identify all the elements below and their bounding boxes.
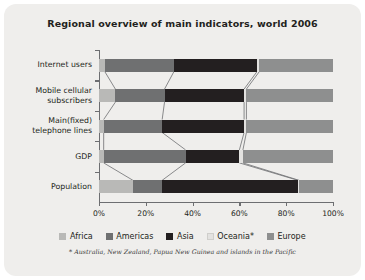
x-axis-tick xyxy=(333,202,334,206)
bar-row xyxy=(99,150,333,163)
y-axis-category-label: Mobile cellularsubscribers xyxy=(4,86,92,105)
y-axis-tick xyxy=(95,141,99,142)
segment-connector-line xyxy=(246,72,259,89)
chart-legend: AfricaAmericasAsiaOceania*Europe xyxy=(4,232,361,241)
legend-item-oceania[interactable]: Oceania* xyxy=(207,232,254,241)
legend-swatch-icon xyxy=(59,233,66,240)
segment-connector-line xyxy=(162,163,185,180)
legend-swatch-icon xyxy=(166,233,173,240)
segment-connector-line xyxy=(239,163,298,180)
y-axis-category-label: Main(fixed)telephone lines xyxy=(4,116,92,135)
bar-segment-europe xyxy=(246,120,333,133)
y-axis-category-label: Internet users xyxy=(4,60,92,70)
segment-connector-line xyxy=(104,163,133,180)
segment-connector-line xyxy=(104,102,116,119)
bar-segment-asia xyxy=(186,150,240,163)
x-axis-tick-label: 100% xyxy=(316,209,350,218)
chart-footnote: * Australia, New Zealand, Papua New Guin… xyxy=(4,248,361,255)
legend-label: Americas xyxy=(116,232,153,241)
legend-swatch-icon xyxy=(267,233,274,240)
bar-segment-africa xyxy=(99,89,115,102)
bar-segment-americas xyxy=(105,59,174,72)
segment-connector-line xyxy=(243,163,299,180)
bar-segment-europe xyxy=(299,180,333,193)
x-axis-tick-label: 40% xyxy=(176,209,210,218)
bar-segment-europe xyxy=(243,150,333,163)
y-axis-category-label: Population xyxy=(4,182,92,192)
chart-card: Regional overview of main indicators, wo… xyxy=(4,4,361,276)
legend-item-africa[interactable]: Africa xyxy=(59,232,92,241)
segment-connector-line xyxy=(162,133,185,150)
segment-connector-line xyxy=(243,133,247,150)
y-axis-category-label: GDP xyxy=(4,152,92,162)
bar-segment-asia xyxy=(162,120,244,133)
bar-segment-americas xyxy=(104,120,163,133)
x-axis-tick xyxy=(99,202,100,206)
x-axis-tick-label: 80% xyxy=(269,209,303,218)
segment-connector-line xyxy=(165,72,174,89)
segment-connector-line xyxy=(105,72,116,89)
y-axis-tick xyxy=(95,172,99,173)
bar-segment-europe xyxy=(246,89,333,102)
legend-swatch-icon xyxy=(106,233,113,240)
bar-row xyxy=(99,120,333,133)
y-axis-tick xyxy=(95,50,99,51)
y-axis-tick xyxy=(95,80,99,81)
legend-label: Europe xyxy=(277,232,305,241)
segment-connector-line xyxy=(239,133,244,150)
segment-connector-line xyxy=(162,102,164,119)
x-axis-tick xyxy=(193,202,194,206)
bar-segment-americas xyxy=(133,180,162,193)
x-axis-tick-label: 0% xyxy=(82,209,116,218)
legend-swatch-icon xyxy=(207,233,214,240)
x-axis-tick xyxy=(239,202,240,206)
bar-segment-americas xyxy=(115,89,164,102)
bar-row xyxy=(99,180,333,193)
bar-segment-europe xyxy=(259,59,333,72)
bar-row xyxy=(99,59,333,72)
x-axis-tick-label: 60% xyxy=(222,209,256,218)
legend-label: Africa xyxy=(70,232,93,241)
x-axis-tick xyxy=(286,202,287,206)
legend-label: Oceania* xyxy=(217,232,254,241)
x-axis-tick-label: 20% xyxy=(129,209,163,218)
chart-title: Regional overview of main indicators, wo… xyxy=(4,18,361,29)
legend-label: Asia xyxy=(177,232,194,241)
bar-row xyxy=(99,89,333,102)
x-axis-tick xyxy=(146,202,147,206)
segment-connector-line xyxy=(244,72,257,89)
plot-area: Internet usersMobile cellularsubscribers… xyxy=(99,50,333,202)
y-axis-tick xyxy=(95,111,99,112)
bar-segment-asia xyxy=(165,89,245,102)
bar-segment-africa xyxy=(99,180,133,193)
bar-segment-americas xyxy=(104,150,186,163)
bar-segment-asia xyxy=(162,180,298,193)
legend-item-europe[interactable]: Europe xyxy=(267,232,306,241)
legend-item-asia[interactable]: Asia xyxy=(166,232,193,241)
legend-item-americas[interactable]: Americas xyxy=(106,232,154,241)
x-axis-line xyxy=(99,202,334,203)
bar-segment-asia xyxy=(174,59,257,72)
